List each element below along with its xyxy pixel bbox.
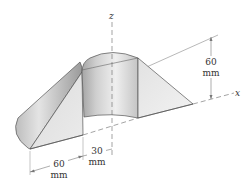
x-axis-line bbox=[193, 93, 234, 104]
height-value: 60 bbox=[205, 57, 217, 67]
radius-unit: mm bbox=[88, 157, 106, 167]
cylinder-surface bbox=[82, 53, 138, 119]
x-axis-hidden bbox=[83, 118, 138, 135]
x-axis-label: x bbox=[235, 88, 240, 98]
height-unit: mm bbox=[202, 68, 220, 78]
left-length-value: 60 bbox=[53, 159, 65, 169]
left-length-arrow-a bbox=[30, 170, 35, 173]
height-dim-arrow-bottom bbox=[210, 95, 213, 99]
left-length-arrow-b bbox=[78, 156, 83, 159]
left-length-unit: mm bbox=[50, 170, 68, 180]
radius-value: 30 bbox=[91, 146, 103, 156]
right-wedge-face bbox=[138, 58, 193, 118]
z-axis-label: z bbox=[108, 11, 114, 21]
diagram-canvas: x z 60 mm 60 mm 30 mm bbox=[0, 0, 241, 189]
